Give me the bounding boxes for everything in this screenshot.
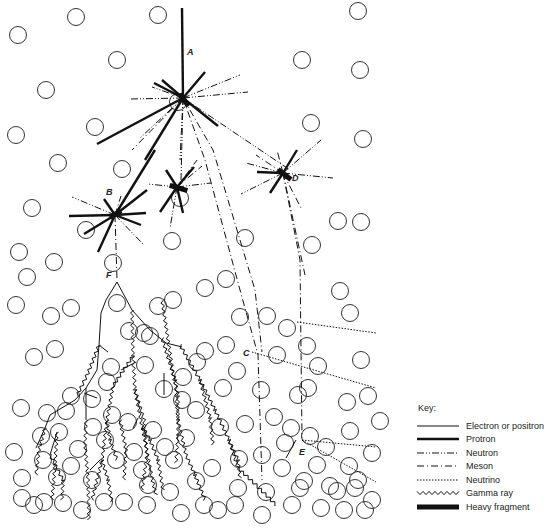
atom-circle bbox=[342, 423, 359, 440]
legend-label: Protron bbox=[466, 434, 496, 444]
atom-circle bbox=[360, 388, 377, 405]
atom-circle bbox=[70, 441, 87, 458]
label-C: C bbox=[243, 348, 250, 358]
atom-circle bbox=[109, 52, 126, 69]
atom-circle bbox=[258, 484, 275, 501]
atom-circle bbox=[284, 497, 301, 514]
atom-circle bbox=[126, 444, 143, 461]
atom-circle bbox=[197, 280, 214, 297]
proton-track bbox=[115, 150, 155, 215]
legend-item-proton: Protron bbox=[416, 433, 556, 447]
atom-circle bbox=[283, 420, 300, 437]
atom-circle bbox=[50, 155, 67, 172]
label-A: A bbox=[186, 47, 194, 57]
atom-circle bbox=[336, 502, 353, 519]
heavy-track bbox=[112, 212, 119, 216]
atom-circle bbox=[38, 82, 55, 99]
neutron-track bbox=[177, 183, 211, 187]
atom-circle bbox=[74, 502, 91, 519]
atom-circle bbox=[104, 407, 121, 424]
atom-circle bbox=[63, 300, 80, 317]
atom-circle bbox=[210, 502, 227, 519]
neutron-track bbox=[183, 92, 248, 98]
meson-track bbox=[177, 160, 197, 187]
atom-circle bbox=[353, 352, 370, 369]
atom-circle bbox=[309, 457, 326, 474]
atom-circle bbox=[114, 161, 131, 178]
atom-circle bbox=[269, 347, 286, 364]
atom-circle bbox=[189, 354, 206, 371]
atom-circle bbox=[36, 494, 53, 511]
legend-item-neutrino: Neutrino bbox=[416, 473, 556, 487]
label-E: E bbox=[299, 447, 306, 457]
atom-circle bbox=[139, 497, 156, 514]
atom-circle bbox=[313, 500, 330, 517]
neutron-swatch-icon bbox=[416, 449, 460, 457]
atom-circle bbox=[218, 271, 235, 288]
atom-circle bbox=[10, 27, 27, 44]
gamma-ray-track bbox=[77, 346, 101, 397]
legend-label: Neutron bbox=[466, 448, 498, 458]
legend-label: Heavy fragment bbox=[466, 502, 530, 512]
atom-circle bbox=[19, 269, 36, 286]
atom-circle bbox=[204, 460, 221, 477]
atom-circle bbox=[303, 115, 320, 132]
atom-circle bbox=[304, 237, 321, 254]
atom-circle bbox=[254, 447, 271, 464]
neutrino-track bbox=[297, 322, 376, 333]
atom-circle bbox=[13, 400, 30, 417]
meson-swatch-icon bbox=[416, 462, 460, 470]
atom-circle bbox=[84, 472, 101, 489]
neutron-track bbox=[130, 98, 183, 99]
atom-circle bbox=[332, 283, 349, 300]
atom-circle bbox=[175, 369, 192, 386]
atom-circle bbox=[103, 359, 120, 376]
atom-circle bbox=[8, 127, 25, 144]
atom-circle bbox=[310, 358, 327, 375]
atom-circle bbox=[6, 444, 23, 461]
atom-circle bbox=[352, 62, 369, 79]
atom-circle bbox=[302, 428, 319, 445]
proton-track bbox=[69, 215, 115, 216]
atom-circle bbox=[26, 349, 43, 366]
atom-circle bbox=[197, 343, 214, 360]
proton-track bbox=[115, 215, 141, 225]
atom-circle bbox=[157, 439, 174, 456]
atom-circle bbox=[266, 409, 283, 426]
atom-circle bbox=[279, 320, 296, 337]
atom-circle bbox=[26, 497, 43, 514]
atom-circle bbox=[173, 505, 190, 522]
atom-circle bbox=[294, 52, 311, 69]
gamma-swatch-icon bbox=[416, 489, 460, 497]
atom-circle bbox=[188, 402, 205, 419]
atom-circle bbox=[162, 484, 179, 501]
legend-label: Electron or positron bbox=[466, 421, 544, 431]
atom-circle bbox=[166, 452, 183, 469]
atom-circle bbox=[355, 131, 372, 148]
label-B: B bbox=[106, 187, 113, 197]
heavy-swatch-icon bbox=[416, 503, 460, 511]
meson-track bbox=[183, 98, 262, 352]
particle-tracks bbox=[35, 8, 376, 520]
atom-circle bbox=[227, 497, 244, 514]
atom-circle bbox=[353, 214, 370, 231]
atom-circle bbox=[68, 9, 85, 26]
proton-track bbox=[183, 72, 205, 98]
atom-circle bbox=[372, 413, 389, 430]
legend-item-electron: Electron or positron bbox=[416, 419, 556, 433]
meson-track bbox=[132, 98, 183, 150]
atom-circle bbox=[237, 230, 254, 247]
proton-swatch-icon bbox=[416, 435, 460, 443]
atom-circle bbox=[121, 323, 138, 340]
atom-circle bbox=[63, 458, 80, 475]
atom-circle bbox=[229, 363, 246, 380]
atom-circle bbox=[165, 292, 182, 309]
atom-circle bbox=[14, 470, 31, 487]
atom-circle bbox=[253, 382, 270, 399]
meson-track bbox=[183, 98, 262, 480]
atom-circle bbox=[51, 424, 68, 441]
atom-circle bbox=[150, 7, 167, 24]
gamma-ray-track bbox=[50, 454, 65, 500]
electron-track bbox=[286, 440, 296, 458]
atom-circle bbox=[8, 297, 25, 314]
